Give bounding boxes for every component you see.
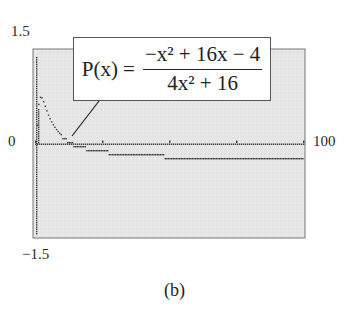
formula-numerator: −x² + 16x − 4 <box>143 42 262 70</box>
formula-lhs: P(x) = <box>82 57 135 82</box>
formula-callout: P(x) = −x² + 16x − 4 4x² + 16 <box>73 37 271 101</box>
formula: P(x) = −x² + 16x − 4 4x² + 16 <box>82 42 263 96</box>
figure-caption: (b) <box>0 280 349 301</box>
formula-denominator: 4x² + 16 <box>167 70 238 96</box>
formula-fraction: −x² + 16x − 4 4x² + 16 <box>143 42 262 96</box>
